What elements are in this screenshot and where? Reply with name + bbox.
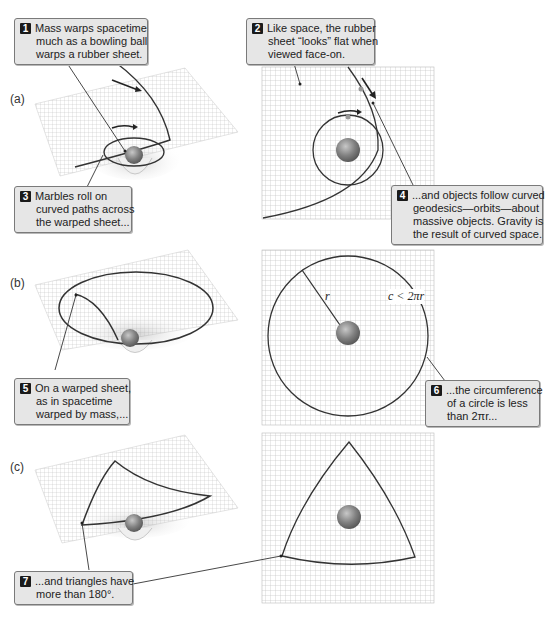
callout-4: 4...and objects follow curved geodesics—…: [391, 185, 543, 245]
diagram-canvas: [0, 0, 553, 626]
callout-text: Like space, the rubber: [267, 22, 376, 34]
callout-text: than 2πr...: [431, 410, 534, 423]
callout-number: 3: [20, 191, 31, 202]
callout-text: massive objects. Gravity is: [397, 215, 537, 228]
flat-grid-c: [262, 433, 434, 603]
panel-label-b: (b): [10, 276, 25, 290]
callout-6: 6...the circumference of a circle is les…: [425, 380, 540, 427]
flat-grid-b: [262, 250, 434, 425]
callout-text: of a circle is less: [431, 397, 534, 410]
callout-text: Mass warps spacetime: [35, 22, 147, 34]
callout-number: 1: [20, 23, 31, 34]
warped-sheet-b: [35, 250, 238, 353]
callout-text: the warped sheet...: [20, 216, 126, 229]
callout-text: ...and objects follow curved: [412, 189, 545, 201]
callout-number: 2: [252, 23, 263, 34]
callout-text: warped by mass,...: [20, 408, 124, 421]
callout-text: On a warped sheet,: [35, 382, 131, 394]
callout-text: more than 180°.: [20, 588, 127, 601]
callout-text: viewed face-on.: [252, 48, 369, 61]
callout-number: 7: [20, 576, 31, 587]
callout-text: warps a rubber sheet.: [20, 48, 142, 61]
callout-text: geodesics—orbits—about: [397, 202, 537, 215]
callout-number: 5: [20, 383, 31, 394]
callout-7: 7...and triangles have more than 180°.: [14, 571, 133, 605]
callout-text: much as a bowling ball: [20, 35, 142, 48]
callout-text: as in spacetime: [20, 395, 124, 408]
warped-sheet-a: [35, 62, 238, 180]
callout-1: 1Mass warps spacetime much as a bowling …: [14, 18, 148, 65]
panel-label-a: (a): [10, 92, 25, 106]
callout-2: 2Like space, the rubber sheet “looks” fl…: [246, 18, 375, 65]
callout-text: curved paths across: [20, 203, 126, 216]
callout-number: 4: [397, 190, 408, 201]
circumference-label: c < 2πr: [388, 289, 424, 304]
callout-text: ...the circumference: [446, 384, 543, 396]
callout-number: 6: [431, 385, 442, 396]
callout-text: Marbles roll on: [35, 190, 107, 202]
radius-label: r: [325, 289, 330, 304]
panel-label-c: (c): [10, 460, 24, 474]
callout-text: ...and triangles have: [35, 575, 134, 587]
callout-3: 3Marbles roll on curved paths across the…: [14, 186, 132, 233]
callout-5: 5On a warped sheet, as in spacetime warp…: [14, 378, 130, 425]
warped-sheet-c: [35, 435, 238, 543]
callout-text: sheet “looks” flat when: [252, 35, 369, 48]
callout-text: the result of curved space.: [397, 228, 537, 241]
